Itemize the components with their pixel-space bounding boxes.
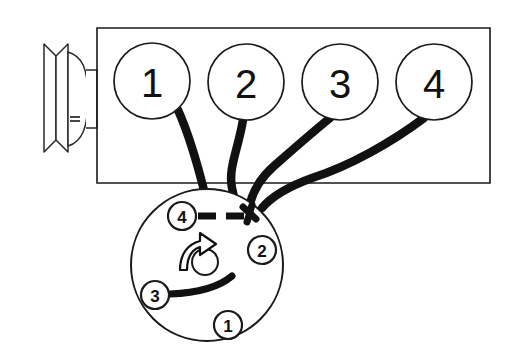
distributor-cap [131, 189, 283, 341]
cylinder-2[interactable]: 2 [208, 44, 284, 120]
terminal-3-label: 3 [150, 287, 159, 306]
terminal-1-label: 1 [223, 317, 232, 336]
cylinder-2-label: 2 [235, 62, 257, 106]
cylinder-3[interactable]: 3 [302, 44, 378, 120]
distributor-terminal-3[interactable]: 3 [141, 281, 169, 309]
cylinder-1[interactable]: 1 [114, 43, 190, 119]
wire-cyl4-to-term4 [262, 118, 424, 208]
cylinder-4-label: 4 [423, 62, 445, 106]
rotor-center-hole [192, 249, 218, 275]
cylinder-3-label: 3 [329, 62, 351, 106]
pulley-outer-flange [44, 44, 56, 152]
firing-order-diagram: Engine firing order and distributor wiri… [0, 0, 520, 360]
cylinders: 1 2 3 4 [114, 43, 472, 120]
distributor-terminal-2[interactable]: 2 [248, 236, 276, 264]
distributor-terminal-4[interactable]: 4 [168, 202, 196, 230]
diagram-canvas: Engine firing order and distributor wiri… [0, 0, 520, 360]
cylinder-4[interactable]: 4 [396, 44, 472, 120]
cylinder-1-label: 1 [141, 61, 163, 105]
pulley-hub [68, 52, 88, 146]
distributor-terminal-1[interactable]: 1 [214, 311, 242, 339]
terminal-4-label: 4 [177, 208, 187, 227]
lead-term4-arrowhead-2 [247, 205, 252, 222]
wire-cyl3-to-term3 [248, 118, 330, 214]
crankshaft-pulley [44, 44, 97, 152]
pulley-inner-flange [56, 44, 68, 152]
pulley-shaft [86, 70, 97, 128]
terminal-2-label: 2 [257, 242, 266, 261]
